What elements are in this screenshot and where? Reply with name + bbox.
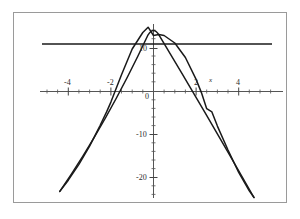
x-tick-label-neg2: -2: [107, 79, 114, 87]
graph-screenshot: -4 -2 2 4 x 10 0 -10 -20: [0, 0, 300, 219]
y-tick-label-neg10: -10: [136, 131, 147, 139]
x-tick-label-4: 4: [236, 79, 240, 87]
parabola-curve-smooth: [60, 30, 254, 197]
x-tick-label-2: 2: [194, 79, 198, 87]
y-tick-label-neg20: -20: [136, 174, 147, 182]
plot-canvas: [0, 0, 300, 219]
y-tick-label-0: 0: [145, 93, 149, 101]
x-axis-label: x: [209, 77, 212, 84]
x-tick-label-neg4: -4: [64, 79, 71, 87]
parabola-series: [60, 27, 254, 197]
y-tick-label-10: 10: [139, 45, 147, 53]
